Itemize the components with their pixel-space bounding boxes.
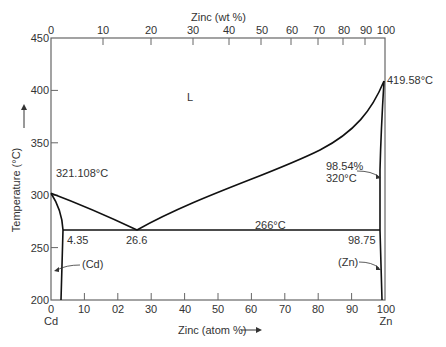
y-axis-title: Temperature (°C) [10,148,22,232]
zn-solvus-temp-label: 320°C [326,173,357,184]
y-tick-label: 350 [31,138,49,149]
x-tick-label: 60 [245,304,257,315]
x-axis-arrowhead [256,327,262,333]
x-ticks-bottom [84,293,351,300]
x-ticks-top [103,38,365,45]
top-tick-label: 30 [187,25,199,36]
top-tick-label: 60 [286,25,298,36]
y-tick-label: 300 [31,190,49,201]
cd-end-label: Cd [44,316,58,327]
top-tick-label: 70 [313,25,325,36]
eutectic-right-comp-label: 98.75 [348,235,376,246]
x-tick-label: 30 [145,304,157,315]
eutectic-left-comp-label: 4.35 [67,235,88,246]
x-tick-label: 0 [48,304,54,315]
liquidus-zn-curve [137,81,384,230]
cd-melting-point-label: 321.108°C [56,168,108,179]
top-tick-label: 10 [97,25,109,36]
top-tick-label: 20 [145,25,157,36]
zn-end-label: Zn [380,316,393,327]
top-tick-label: 80 [338,25,350,36]
x-tick-label: 90 [346,304,358,315]
x-tick-label: 100 [377,304,395,315]
x-tick-label: 10 [78,304,90,315]
x-tick-label: 40 [179,304,191,315]
x-tick-label: 70 [279,304,291,315]
y-axis-arrowhead [21,104,27,110]
cd-pointer-arrowhead [54,267,59,272]
zn-melting-point-label: 419.58°C [387,75,433,86]
solvus-zn-curve [380,81,384,300]
cd-phase-label: (Cd) [82,259,103,270]
liquidus-cd-curve [51,193,137,230]
zn-solvus-pct-label: 98.54% [326,161,363,172]
zn-phase-label: (Zn) [338,257,358,268]
top-tick-label: 40 [223,25,235,36]
y-tick-label: 400 [31,85,49,96]
y-tick-label: 250 [31,243,49,254]
top-axis-title: Zinc (wt %) [191,12,246,23]
eutectic-comp-label: 26.6 [126,235,147,246]
x-tick-label: 02 [112,304,124,315]
top-tick-label: 90 [360,25,372,36]
cd-pointer-arrow [57,265,80,270]
bottom-axis-title: Zinc (atom %) [178,325,246,336]
top-tick-label: 100 [377,25,395,36]
y-tick-label: 200 [31,295,49,306]
x-tick-label: 50 [212,304,224,315]
y-tick-label: 450 [31,33,49,44]
eutectic-temp-label: 266°C [255,220,286,231]
top-tick-label: 50 [256,25,268,36]
liquid-region-label: L [187,92,193,103]
x-tick-label: 80 [312,304,324,315]
solvus-cd-curve [51,193,63,300]
